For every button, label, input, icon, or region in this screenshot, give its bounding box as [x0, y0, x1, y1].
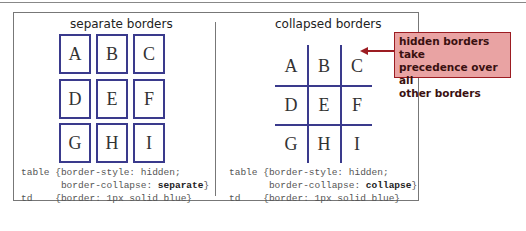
- table-cell: E: [96, 79, 128, 119]
- code-brace: }: [411, 180, 417, 191]
- panel-divider: [215, 22, 216, 196]
- table-cell: D: [59, 79, 91, 119]
- code-selector: table: [229, 167, 258, 178]
- code-brace: }: [203, 180, 209, 191]
- table-cell: A: [59, 34, 91, 74]
- code-rule: {border-style: hidden;: [55, 167, 180, 178]
- table-cell: I: [341, 125, 373, 163]
- separate-borders-title: separate borders: [70, 17, 173, 31]
- table-cell: G: [275, 125, 307, 163]
- code-selector: table: [21, 167, 50, 178]
- table-cell: D: [275, 86, 307, 124]
- arrow-left-icon: [360, 47, 368, 55]
- code-property: border-collapse:: [269, 180, 366, 191]
- code-value-separate: separate: [158, 180, 204, 191]
- table-cell: G: [59, 123, 91, 163]
- table-cell: H: [308, 125, 340, 163]
- code-rule: {border: 1px solid blue}: [55, 193, 192, 204]
- callout-arrow-shaft: [366, 50, 394, 52]
- table-cell: I: [133, 123, 165, 163]
- callout-box: hidden borders take precedence over all …: [394, 32, 511, 78]
- table-cell: C: [341, 47, 373, 85]
- table-cell: A: [275, 47, 307, 85]
- table-cell: C: [133, 34, 165, 74]
- table-cell: B: [308, 47, 340, 85]
- table-cell: E: [308, 86, 340, 124]
- callout-text-line: hidden borders take: [399, 35, 506, 61]
- callout-text-line: precedence over all: [399, 61, 506, 87]
- code-selector: td: [21, 193, 32, 204]
- table-cell: H: [96, 123, 128, 163]
- collapsed-borders-title: collapsed borders: [275, 17, 382, 31]
- table-cell: B: [96, 34, 128, 74]
- top-rule: [0, 2, 526, 3]
- separate-css-code: table {border-style: hidden; border-coll…: [21, 166, 209, 205]
- code-rule: {border: 1px solid blue}: [263, 193, 400, 204]
- callout-text-line: other borders: [399, 87, 506, 100]
- code-selector: td: [229, 193, 240, 204]
- table-cell: F: [341, 86, 373, 124]
- collapse-css-code: table {border-style: hidden; border-coll…: [229, 166, 417, 205]
- code-property: border-collapse:: [61, 180, 158, 191]
- code-rule: {border-style: hidden;: [263, 167, 388, 178]
- table-cell: F: [133, 79, 165, 119]
- code-value-collapse: collapse: [366, 180, 412, 191]
